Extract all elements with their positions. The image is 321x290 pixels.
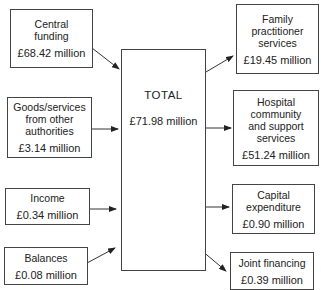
output-label: and support — [248, 120, 303, 132]
input-label: Balances — [24, 252, 67, 264]
input-goods-services: Goods/services from other authorities £3… — [7, 97, 92, 158]
output-amount: £51.24 million — [242, 149, 310, 161]
output-label: services — [258, 37, 297, 49]
input-central-funding: Central funding £68.42 million — [10, 9, 93, 68]
output-amount: £0.39 million — [241, 274, 303, 286]
input-amount: £0.34 million — [17, 209, 79, 221]
output-label: practitioner — [252, 25, 304, 37]
output-label: expenditure — [246, 201, 301, 213]
input-label: Central — [35, 18, 69, 30]
total-box: TOTAL £71.98 million — [121, 49, 206, 271]
arrow-central-funding — [92, 48, 119, 69]
output-amount: £0.90 million — [243, 218, 305, 230]
input-amount: £3.14 million — [19, 142, 81, 154]
output-label: services — [257, 132, 296, 144]
input-income: Income £0.34 million — [5, 188, 90, 225]
input-amount: £0.08 million — [15, 269, 77, 281]
arrow-family-practitioner — [206, 56, 233, 72]
output-label: Capital — [257, 189, 290, 201]
output-hospital-services: Hospital community and support services … — [233, 90, 319, 166]
total-amount: £71.98 million — [130, 115, 198, 127]
arrow-balances — [87, 248, 115, 263]
input-amount: £68.42 million — [18, 47, 86, 59]
output-joint-financing: Joint financing £0.39 million — [230, 252, 314, 290]
input-label: from other — [26, 113, 74, 125]
output-label: Joint financing — [238, 257, 305, 269]
input-label: authorities — [25, 125, 73, 137]
input-label: Income — [30, 192, 64, 204]
output-capital-expenditure: Capital expenditure £0.90 million — [232, 184, 315, 234]
output-family-practitioner: Family practitioner services £19.45 mill… — [236, 4, 319, 74]
output-amount: £19.45 million — [244, 54, 312, 66]
output-label: community — [251, 108, 302, 120]
input-balances: Balances £0.08 million — [4, 247, 88, 285]
total-label: TOTAL — [144, 89, 183, 101]
output-label: Family — [262, 13, 293, 25]
output-label: Hospital — [257, 96, 295, 108]
input-label: funding — [34, 30, 68, 42]
input-label: Goods/services — [13, 101, 85, 113]
